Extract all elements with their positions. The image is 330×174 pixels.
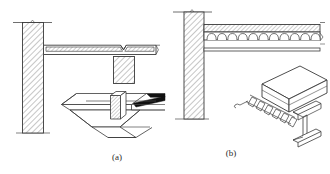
beam-flange-line — [204, 48, 320, 51]
panel-a-caption: (a) — [112, 152, 122, 162]
wall-section-b — [184, 12, 204, 119]
technical-drawing-figure: (a) — [0, 0, 330, 174]
slab-core-right — [125, 47, 154, 51]
drawing-canvas: (a) — [0, 0, 330, 174]
arch-rib — [290, 34, 299, 41]
arch-rib — [238, 34, 247, 41]
wall-column-section — [23, 23, 44, 134]
arch-rib — [207, 34, 216, 41]
arch-rib — [280, 34, 289, 41]
deck-cut-section-side — [121, 92, 127, 120]
arch-rib — [311, 34, 320, 41]
deck-cut-section-block — [111, 96, 121, 120]
arch-rib-group — [207, 34, 320, 41]
composite-slab-topping — [204, 25, 320, 33]
arch-rib — [249, 34, 258, 41]
arch-rib — [228, 34, 237, 41]
slab-core-left — [46, 47, 123, 51]
arch-rib — [259, 34, 268, 41]
arch-rib — [217, 34, 226, 41]
arch-rib — [301, 34, 310, 41]
rib-block-section — [114, 57, 135, 84]
panel-b-caption: (b) — [226, 148, 237, 158]
arch-rib — [269, 34, 278, 41]
